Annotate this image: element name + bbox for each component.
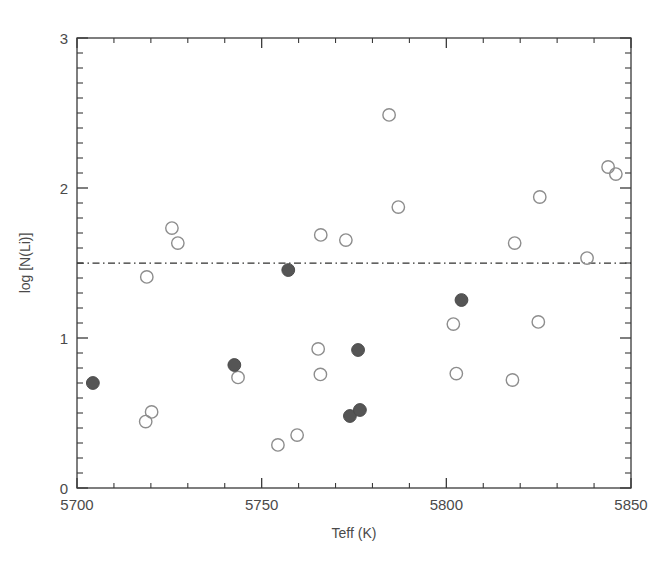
data-point-open (532, 316, 544, 328)
data-point-open (383, 109, 395, 121)
data-point-open (141, 271, 153, 283)
data-point-open (340, 234, 352, 246)
data-point-open (450, 367, 462, 379)
data-point-open (602, 161, 614, 173)
data-point-filled (352, 344, 365, 357)
data-point-filled (354, 404, 367, 417)
data-point-open (314, 368, 326, 380)
data-point-open (232, 371, 244, 383)
data-point-open (534, 191, 546, 203)
data-point-filled (86, 377, 99, 390)
data-point-open (291, 429, 303, 441)
y-tick-label: 3 (60, 30, 68, 47)
data-point-open (508, 237, 520, 249)
x-tick-label: 5800 (430, 496, 463, 513)
data-point-open (166, 222, 178, 234)
data-point-open (581, 252, 593, 264)
y-axis-title: log [N(Li)] (17, 233, 33, 294)
data-point-open (506, 374, 518, 386)
data-point-open (145, 406, 157, 418)
y-tick-label: 1 (60, 330, 68, 347)
series-filled-circles (86, 264, 467, 423)
data-point-filled (455, 294, 468, 307)
data-point-open (172, 237, 184, 249)
x-tick-label: 5850 (614, 496, 647, 513)
data-point-open (315, 229, 327, 241)
x-tick-label: 5750 (245, 496, 278, 513)
data-point-open (610, 168, 622, 180)
x-axis-title: Teff (K) (332, 525, 377, 541)
y-tick-label: 0 (60, 480, 68, 497)
data-point-open (312, 343, 324, 355)
x-tick-label: 5700 (60, 496, 93, 513)
data-point-filled (228, 359, 241, 372)
y-axis-tick-labels: 0123 (60, 30, 68, 497)
data-point-open (392, 201, 404, 213)
data-point-open (447, 318, 459, 330)
series-open-circles (140, 109, 623, 451)
plot-canvas: 5700575058005850 0123 Teff (K) log [N(Li… (0, 0, 669, 565)
data-point-open (272, 439, 284, 451)
y-tick-label: 2 (60, 180, 68, 197)
data-point-open (140, 415, 152, 427)
scatter-plot-figure: 5700575058005850 0123 Teff (K) log [N(Li… (0, 0, 669, 565)
x-axis-tick-labels: 5700575058005850 (60, 496, 647, 513)
data-point-filled (282, 264, 295, 277)
